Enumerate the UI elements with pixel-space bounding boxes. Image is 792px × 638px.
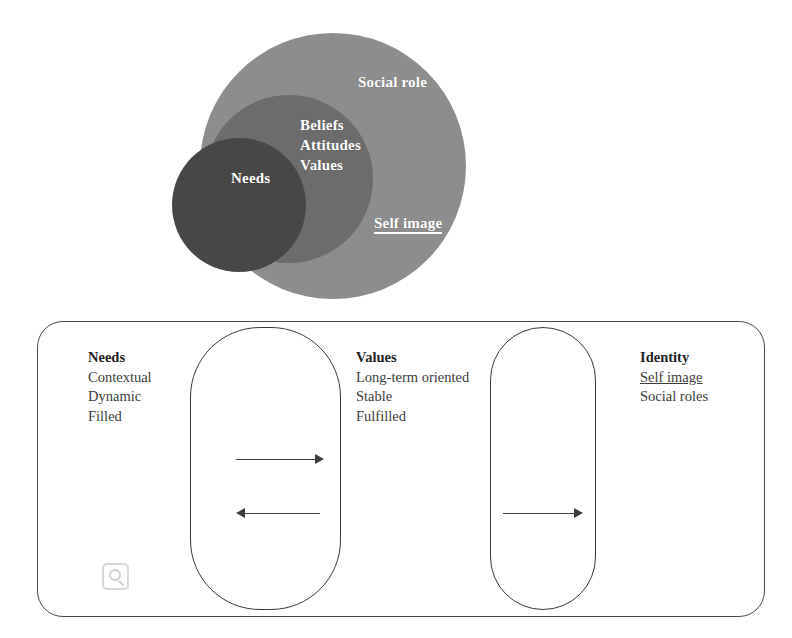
arrow-values-to-identity (503, 508, 583, 518)
venn-label-values: Values (300, 155, 361, 175)
column-identity-item-1: Social roles (640, 387, 708, 407)
arrow-head (315, 454, 324, 464)
column-needs-item-1: Dynamic (88, 387, 152, 407)
arrow-needs-to-values (236, 454, 324, 464)
arrow-head (236, 508, 245, 518)
column-needs: Needs Contextual Dynamic Filled (88, 348, 152, 426)
diagram-canvas: Social role Beliefs Attitudes Values Nee… (0, 0, 792, 638)
arrow-shaft (503, 513, 575, 514)
venn-label-beliefs-group: Beliefs Attitudes Values (300, 115, 361, 175)
venn-circle-needs (172, 138, 306, 272)
column-identity-heading: Identity (640, 348, 708, 368)
venn-label-social-role: Social role (358, 74, 427, 91)
column-identity-item-0: Self image (640, 368, 708, 388)
arrow-head (574, 508, 583, 518)
column-values-item-0: Long-term oriented (356, 368, 469, 388)
column-identity: Identity Self image Social roles (640, 348, 708, 407)
column-values-heading: Values (356, 348, 469, 368)
arrow-values-to-needs (236, 508, 320, 518)
venn-label-attitudes: Attitudes (300, 135, 361, 155)
venn-label-self-image-text: Self image (374, 215, 442, 234)
arrow-shaft (236, 459, 316, 460)
column-values-item-1: Stable (356, 387, 469, 407)
column-needs-item-2: Filled (88, 407, 152, 427)
column-values: Values Long-term oriented Stable Fulfill… (356, 348, 469, 426)
arrow-shaft (244, 513, 320, 514)
venn-diagram: Social role Beliefs Attitudes Values Nee… (0, 0, 792, 310)
venn-label-self-image: Self image (374, 215, 442, 232)
transition-pill-values-identity (490, 327, 596, 610)
column-values-item-2: Fulfilled (356, 407, 469, 427)
transition-pill-needs-values (190, 327, 341, 610)
magnifier-handle (118, 580, 124, 586)
venn-label-needs: Needs (231, 170, 270, 187)
magnifier-icon (102, 563, 129, 590)
column-needs-item-0: Contextual (88, 368, 152, 388)
column-needs-heading: Needs (88, 348, 152, 368)
venn-label-beliefs: Beliefs (300, 115, 361, 135)
